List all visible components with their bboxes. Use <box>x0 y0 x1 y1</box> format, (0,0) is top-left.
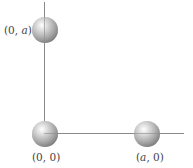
x-axis <box>44 133 184 134</box>
x-axis-overlay-origin <box>44 133 58 134</box>
diagram: (0, a) (0, 0) (a, 0) <box>0 0 193 168</box>
x-axis-overlay-right <box>134 133 160 134</box>
label-right-point: (a, 0) <box>136 151 164 163</box>
label-top-point: (0, a) <box>4 24 32 36</box>
label-origin-point: (0, 0) <box>32 151 60 163</box>
y-axis-overlay <box>44 17 45 43</box>
